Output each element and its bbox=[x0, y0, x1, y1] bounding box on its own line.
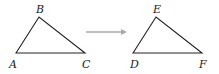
transformation-diagram: A B C D E F bbox=[0, 0, 219, 74]
label-e: E bbox=[152, 3, 161, 16]
triangle-def bbox=[133, 17, 202, 53]
label-a: A bbox=[8, 58, 17, 71]
label-b: B bbox=[35, 3, 44, 16]
label-c: C bbox=[82, 58, 91, 71]
triangle-abc bbox=[16, 17, 85, 53]
arrow-icon bbox=[86, 29, 127, 35]
label-f: F bbox=[198, 58, 207, 71]
label-d: D bbox=[129, 58, 139, 71]
